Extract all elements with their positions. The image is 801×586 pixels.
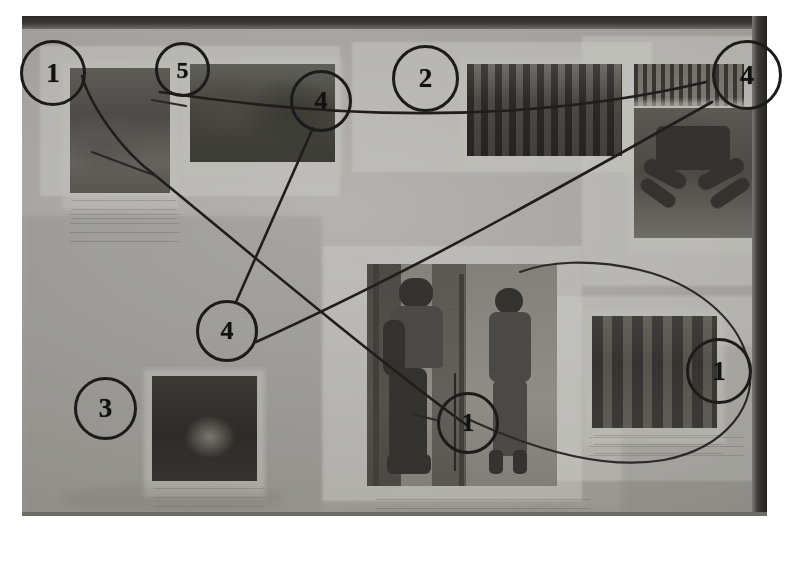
paper-smudge xyxy=(62,486,282,512)
night-scene-photo xyxy=(152,376,257,481)
annotation-circle-4-top-right[interactable]: 4 xyxy=(712,40,782,110)
annotation-label: 1 xyxy=(462,410,475,436)
photo-frame-bottom-edge xyxy=(22,512,767,516)
photo-frame-top-edge xyxy=(22,16,767,29)
photo-image xyxy=(152,376,257,481)
annotation-label: 2 xyxy=(419,65,433,92)
handwritten-note xyxy=(587,436,737,460)
pole-shape xyxy=(373,264,379,486)
annotation-circle-1-top-left[interactable]: 1 xyxy=(20,40,86,106)
annotation-label: 5 xyxy=(177,58,189,82)
photo-image xyxy=(70,68,170,193)
figure-feet xyxy=(387,454,431,474)
annotation-label: 4 xyxy=(740,61,754,89)
note-lines xyxy=(589,436,743,460)
figure-head xyxy=(399,278,433,308)
annotation-circle-1-center[interactable]: 1 xyxy=(437,392,499,454)
figure-torso xyxy=(489,312,531,382)
annotation-label: 1 xyxy=(712,358,726,385)
annotation-circle-1-right[interactable]: 1 xyxy=(686,338,752,404)
hands-shape xyxy=(656,126,730,170)
pole-shape xyxy=(459,274,464,486)
figure-foot xyxy=(489,450,503,474)
annotation-label: 4 xyxy=(221,318,234,344)
annotation-label: 3 xyxy=(99,395,113,422)
annotation-circle-2[interactable]: 2 xyxy=(392,45,459,112)
screenshot-canvas: 1 5 4 2 4 4 3 1 1 xyxy=(0,0,801,586)
annotation-circle-4-upper-mid[interactable]: 4 xyxy=(290,70,352,132)
annotation-circle-3[interactable]: 3 xyxy=(74,377,137,440)
figure-head xyxy=(495,288,523,314)
photo-image xyxy=(467,64,622,156)
annotation-label: 1 xyxy=(46,60,60,87)
group-of-people-photo xyxy=(467,64,622,156)
rock-landscape-photo xyxy=(70,68,170,193)
annotation-circle-5[interactable]: 5 xyxy=(155,42,210,97)
figure-legs xyxy=(389,368,427,460)
annotation-label: 4 xyxy=(315,88,328,114)
handwritten-note xyxy=(68,212,173,246)
annotation-circle-4-lower-mid[interactable]: 4 xyxy=(196,300,258,362)
figure-foot xyxy=(513,450,527,474)
note-lines xyxy=(70,212,179,246)
joined-hands-photo xyxy=(634,108,754,238)
